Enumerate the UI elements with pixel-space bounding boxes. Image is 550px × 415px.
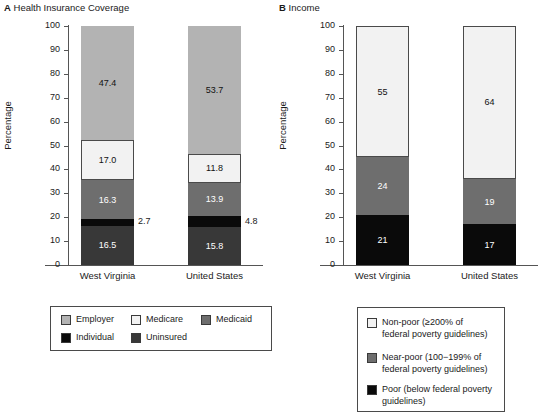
y-tick-mark bbox=[339, 241, 343, 242]
y-tick-label: 80 bbox=[305, 68, 335, 78]
bar-segment[interactable]: 11.8 bbox=[188, 154, 241, 182]
bar-segment[interactable]: 16.5 bbox=[81, 226, 134, 265]
y-tick-label: 40 bbox=[305, 163, 335, 173]
legend-item[interactable]: Poor (below federal poverty guidelines) bbox=[367, 384, 492, 407]
bar-segment[interactable]: 19 bbox=[463, 179, 516, 224]
bar-value-callout: 2.7 bbox=[138, 216, 151, 226]
bar-segment[interactable]: 13.9 bbox=[188, 183, 241, 216]
bar-value-label: 64 bbox=[464, 98, 515, 107]
y-tick-label: 100 bbox=[305, 20, 335, 30]
bar-segment[interactable]: 47.4 bbox=[81, 26, 134, 139]
panel-health-insurance-coverage: A Health Insurance Coverage Percentage 0… bbox=[0, 0, 275, 300]
y-tick-label: 20 bbox=[30, 211, 60, 221]
legend-item[interactable]: Medicaid bbox=[201, 314, 252, 325]
legend-item[interactable]: Employer bbox=[61, 314, 114, 325]
bar-segment[interactable] bbox=[81, 219, 134, 225]
y-tick-label: 70 bbox=[30, 92, 60, 102]
y-tick-mark bbox=[64, 169, 68, 170]
legend-item[interactable]: Medicare bbox=[131, 314, 183, 325]
x-axis-line-a bbox=[45, 265, 263, 266]
y-tick-label: 20 bbox=[305, 211, 335, 221]
y-tick-mark bbox=[339, 98, 343, 99]
stacked-bar[interactable]: 15.813.911.853.7 bbox=[188, 26, 241, 265]
y-tick-label: 50 bbox=[30, 140, 60, 150]
y-tick-label: 30 bbox=[30, 187, 60, 197]
legend-swatch-icon bbox=[367, 318, 377, 328]
bar-value-label: 13.9 bbox=[189, 195, 240, 204]
legend-item-label: Individual bbox=[76, 332, 114, 343]
bar-value-label: 15.8 bbox=[189, 242, 240, 251]
bar-segment[interactable]: 64 bbox=[463, 26, 516, 179]
legend-item[interactable]: Uninsured bbox=[131, 332, 187, 343]
y-tick-mark bbox=[64, 50, 68, 51]
bar-value-label: 16.3 bbox=[82, 195, 133, 204]
bar-value-label: 21 bbox=[357, 235, 408, 244]
y-tick-label: 70 bbox=[305, 92, 335, 102]
bar-segment[interactable]: 21 bbox=[356, 215, 409, 265]
y-axis-label-b: Percentage bbox=[277, 26, 288, 226]
y-tick-label: 80 bbox=[30, 68, 60, 78]
y-tick-label: 60 bbox=[30, 116, 60, 126]
stacked-bar[interactable]: 171964 bbox=[463, 26, 516, 265]
bar-segment[interactable]: 15.8 bbox=[188, 227, 241, 265]
legend-item[interactable]: Non-poor (≥200% of federal poverty guide… bbox=[367, 317, 488, 340]
bar-value-label: 53.7 bbox=[189, 86, 240, 95]
legend-item-label: Uninsured bbox=[146, 332, 187, 343]
y-tick-label: 10 bbox=[30, 235, 60, 245]
y-axis-label-a: Percentage bbox=[2, 26, 13, 226]
panel-income: B Income Percentage 01020304050607080901… bbox=[275, 0, 550, 300]
bar-segment[interactable]: 17 bbox=[463, 224, 516, 265]
y-tick-mark bbox=[64, 217, 68, 218]
legend-item-label: Non-poor (≥200% of federal poverty guide… bbox=[382, 317, 488, 340]
x-category-label: West Virginia bbox=[48, 270, 168, 281]
legend-income: Non-poor (≥200% of federal poverty guide… bbox=[357, 307, 505, 412]
y-tick-mark bbox=[339, 26, 343, 27]
plot-area-a: Percentage 01020304050607080901002.716.5… bbox=[0, 0, 275, 300]
stacked-bar[interactable]: 212455 bbox=[356, 26, 409, 265]
x-category-label: United States bbox=[155, 270, 275, 281]
legend-item-label: Near-poor (100−199% of federal poverty g… bbox=[382, 352, 488, 375]
legend-swatch-icon bbox=[201, 315, 211, 325]
x-axis-line-b bbox=[320, 265, 538, 266]
y-tick-mark bbox=[64, 265, 68, 266]
plot-area-b: Percentage 0102030405060708090100212455W… bbox=[275, 0, 550, 300]
y-tick-mark bbox=[339, 265, 343, 266]
legend-swatch-icon bbox=[367, 385, 377, 395]
legend-item[interactable]: Near-poor (100−199% of federal poverty g… bbox=[367, 352, 488, 375]
bar-value-label: 17.0 bbox=[82, 155, 133, 164]
legend-item-label: Medicare bbox=[146, 314, 183, 325]
y-tick-label: 0 bbox=[305, 259, 335, 269]
bar-value-label: 19 bbox=[464, 197, 515, 206]
legend-swatch-icon bbox=[131, 333, 141, 343]
y-tick-mark bbox=[339, 193, 343, 194]
bar-value-label: 17 bbox=[464, 240, 515, 249]
bar-segment[interactable] bbox=[188, 216, 241, 227]
bar-segment[interactable]: 53.7 bbox=[188, 26, 241, 154]
y-tick-label: 30 bbox=[305, 187, 335, 197]
legend-item-label: Employer bbox=[76, 314, 114, 325]
y-tick-mark bbox=[339, 50, 343, 51]
y-tick-label: 90 bbox=[305, 44, 335, 54]
bar-segment[interactable]: 24 bbox=[356, 157, 409, 214]
y-tick-mark bbox=[339, 74, 343, 75]
y-tick-mark bbox=[339, 122, 343, 123]
bar-value-label: 47.4 bbox=[82, 78, 133, 87]
y-tick-label: 40 bbox=[30, 163, 60, 173]
y-tick-mark bbox=[64, 241, 68, 242]
legend-item[interactable]: Individual bbox=[61, 332, 114, 343]
legend-swatch-icon bbox=[131, 315, 141, 325]
legend-item-label: Poor (below federal poverty guidelines) bbox=[382, 384, 492, 407]
y-tick-label: 0 bbox=[30, 259, 60, 269]
bar-segment[interactable]: 17.0 bbox=[81, 140, 134, 181]
y-tick-label: 100 bbox=[30, 20, 60, 30]
stacked-bar[interactable]: 16.516.317.047.4 bbox=[81, 26, 134, 265]
x-category-label: West Virginia bbox=[323, 270, 443, 281]
legend-swatch-icon bbox=[367, 353, 377, 363]
legend-swatch-icon bbox=[61, 315, 71, 325]
bar-value-label: 24 bbox=[357, 182, 408, 191]
bar-value-label: 11.8 bbox=[189, 164, 240, 173]
bar-segment[interactable]: 16.3 bbox=[81, 180, 134, 219]
y-tick-mark bbox=[64, 146, 68, 147]
y-tick-mark bbox=[64, 122, 68, 123]
bar-segment[interactable]: 55 bbox=[356, 26, 409, 157]
